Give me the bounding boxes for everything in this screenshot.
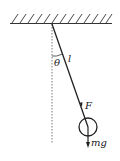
ceiling [10,14,112,24]
weight-label: mg [91,137,107,148]
pendulum-diagram: θ l F mg [0,0,120,161]
angle-arc [52,54,63,56]
weight-arrowhead [86,142,90,148]
angle-label: θ [54,57,60,68]
ceiling-hatching [12,14,112,23]
length-label: l [68,53,71,64]
string [52,24,88,127]
tension-label: F [84,100,93,111]
